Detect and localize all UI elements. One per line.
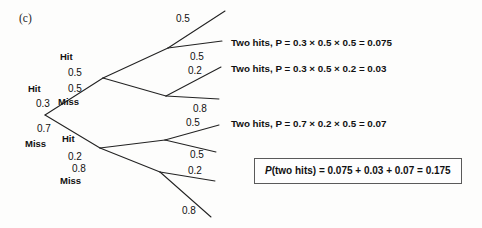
prob-label-terminal-5: 0.5 <box>186 118 200 128</box>
prob-label-terminal-8: 0.8 <box>182 206 196 216</box>
prob-label-terminal-6: 0.5 <box>190 150 204 160</box>
outcome-label-3: Two hits, P = 0.7 × 0.2 × 0.5 = 0.07 <box>231 119 386 129</box>
branch-terminal-2 <box>168 41 222 48</box>
node-label-miss-level2-lower: Miss <box>60 176 81 186</box>
probability-tree-figure: (c) Hit 0.3 Miss 0.7 Hit 0.5 Miss 0.5 Hi… <box>0 0 482 228</box>
branch-hit-hit <box>103 48 168 78</box>
outcome-label-2: Two hits, P = 0.3 × 0.5 × 0.2 = 0.03 <box>231 64 386 74</box>
prob-label-terminal-1: 0.5 <box>176 14 190 24</box>
node-label-hit-level1: Hit <box>28 84 41 94</box>
prob-label-hit-level2-lower: 0.2 <box>68 152 82 162</box>
outcome-label-1: Two hits, P = 0.3 × 0.5 × 0.5 = 0.075 <box>231 38 392 48</box>
outcome-name-3: Two hits, <box>231 118 273 129</box>
node-label-hit-level2-upper: Hit <box>60 52 73 62</box>
outcome-expression-2: P = 0.3 × 0.5 × 0.2 = 0.03 <box>275 63 386 74</box>
tree-branches <box>0 0 482 228</box>
panel-letter: (c) <box>19 13 32 25</box>
outcome-name-1: Two hits, <box>231 37 273 48</box>
prob-label-miss-level2-lower: 0.8 <box>72 164 86 174</box>
node-label-miss-level1: Miss <box>25 139 46 149</box>
branch-terminal-4 <box>166 96 219 99</box>
branch-miss-miss <box>100 148 160 172</box>
prob-label-miss-level1: 0.7 <box>37 124 51 134</box>
outcome-expression-1: P = 0.3 × 0.5 × 0.5 = 0.075 <box>275 37 391 48</box>
prob-label-miss-level2-upper: 0.5 <box>68 84 82 94</box>
outcome-expression-3: P = 0.7 × 0.2 × 0.5 = 0.07 <box>275 118 386 129</box>
node-label-hit-level2-lower: Hit <box>62 134 75 144</box>
branch-miss-hit <box>100 140 165 148</box>
prob-label-terminal-2: 0.5 <box>190 52 204 62</box>
node-label-miss-level2-upper: Miss <box>58 97 79 107</box>
summary-text: (two hits) = 0.075 + 0.03 + 0.07 = 0.175 <box>272 165 451 176</box>
prob-label-terminal-4: 0.8 <box>193 104 207 114</box>
summary-prefix: P <box>265 165 272 176</box>
prob-label-terminal-3: 0.2 <box>188 66 202 76</box>
prob-label-hit-level2-upper: 0.5 <box>68 68 82 78</box>
prob-label-terminal-7: 0.2 <box>188 166 202 176</box>
branch-hit-miss <box>103 78 166 96</box>
outcome-name-2: Two hits, <box>231 63 273 74</box>
prob-label-hit-level1: 0.3 <box>36 99 50 109</box>
summary-equation-box: P(two hits) = 0.075 + 0.03 + 0.07 = 0.17… <box>254 158 462 184</box>
